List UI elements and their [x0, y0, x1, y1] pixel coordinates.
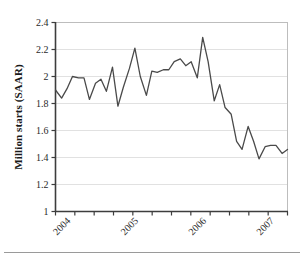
y-axis-title: Million starts (SAAR): [12, 64, 25, 170]
line-chart: 11.21.41.61.822.22.4 2004200520062007 Mi…: [0, 0, 304, 258]
y-tick-label: 1.4: [36, 152, 49, 163]
y-tick-label: 1.6: [36, 125, 49, 136]
y-tick-label: 1.2: [36, 179, 49, 190]
y-tick-label: 1: [44, 206, 49, 217]
y-tick-label: 1.8: [36, 98, 49, 109]
y-tick-label: 2.4: [36, 17, 49, 28]
y-tick-label: 2: [44, 71, 49, 82]
housing-starts-figure: 11.21.41.61.822.22.4 2004200520062007 Mi…: [0, 0, 304, 258]
y-tick-label: 2.2: [36, 44, 49, 55]
